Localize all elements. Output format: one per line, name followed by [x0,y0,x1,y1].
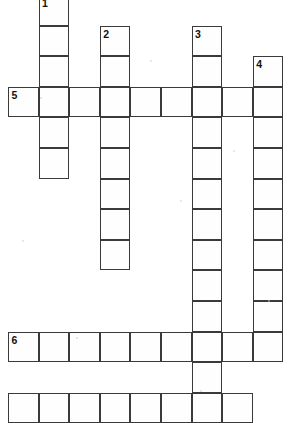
crossword-cell[interactable] [39,56,70,87]
crossword-cell[interactable] [222,332,253,363]
scan-speckle [76,337,78,339]
crossword-cell[interactable] [100,117,131,148]
crossword-cell[interactable] [100,393,131,423]
crossword-cell[interactable] [161,87,192,118]
crossword-cell[interactable] [192,87,223,118]
crossword-cell[interactable] [192,270,223,301]
scan-speckle [233,150,235,152]
crossword-cell[interactable] [192,117,223,148]
crossword-cell[interactable] [253,56,284,87]
crossword-cell[interactable] [192,26,223,57]
crossword-cell[interactable] [192,301,223,332]
crossword-cell[interactable] [253,117,284,148]
crossword-cell[interactable] [100,87,131,118]
crossword-cell[interactable] [222,87,253,118]
crossword-cell[interactable] [192,393,223,423]
crossword-cell[interactable] [39,26,70,57]
crossword-cell[interactable] [192,209,223,240]
crossword-cell[interactable] [192,179,223,210]
crossword-cell[interactable] [192,362,223,393]
scan-speckle [40,97,42,99]
crossword-cell[interactable] [253,179,284,210]
scan-speckle [268,300,270,302]
scan-speckle [150,60,152,62]
crossword-cell[interactable] [130,393,161,423]
crossword-cell[interactable] [192,240,223,271]
crossword-cell[interactable] [253,87,284,118]
crossword-cell[interactable] [130,332,161,363]
crossword-cell[interactable] [39,0,70,26]
crossword-cell[interactable] [100,332,131,363]
crossword-cell[interactable] [192,332,223,363]
crossword-cell[interactable] [222,393,253,423]
crossword-cell[interactable] [253,209,284,240]
crossword-cell[interactable] [253,240,284,271]
crossword-cell[interactable] [161,332,192,363]
crossword-cell[interactable] [39,332,70,363]
crossword-cell[interactable] [8,87,39,118]
crossword-cell[interactable] [39,148,70,179]
crossword-cell[interactable] [69,87,100,118]
crossword-cell[interactable] [100,209,131,240]
crossword-cell[interactable] [161,393,192,423]
crossword-cell[interactable] [69,393,100,423]
scan-speckle [200,390,202,392]
crossword-cell[interactable] [253,270,284,301]
crossword-cell[interactable] [192,56,223,87]
crossword-cell[interactable] [253,332,284,363]
crossword-cell[interactable] [8,393,39,423]
crossword-cell[interactable] [253,301,284,332]
crossword-cell[interactable] [39,393,70,423]
crossword-cell[interactable] [253,148,284,179]
crossword-cell[interactable] [39,87,70,118]
crossword-cell[interactable] [39,117,70,148]
crossword-cell[interactable] [100,26,131,57]
crossword-cell[interactable] [100,179,131,210]
crossword-cell[interactable] [100,56,131,87]
crossword-cell[interactable] [130,87,161,118]
crossword-cell[interactable] [100,148,131,179]
scan-speckle [22,240,24,242]
crossword-cell[interactable] [100,240,131,271]
scan-speckle [180,200,182,202]
crossword-cell[interactable] [69,332,100,363]
crossword-cell[interactable] [192,148,223,179]
crossword-cell[interactable] [8,332,39,363]
